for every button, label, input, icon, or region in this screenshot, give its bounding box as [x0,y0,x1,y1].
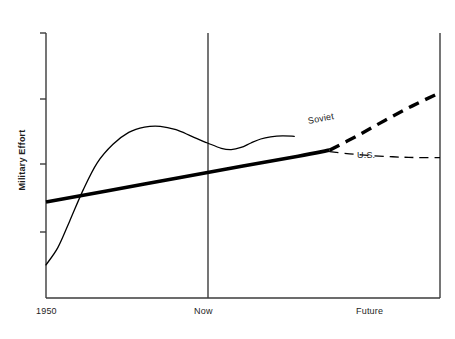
series-trend-bold-solid [46,150,330,202]
chart-figure: Military Effort 1950 Now Future Soviet U… [0,0,455,339]
y-axis-title: Military Effort [17,120,27,200]
series-us-projection [330,152,440,158]
x-tick-label-now: Now [194,306,213,316]
series-soviet-projection [330,93,440,151]
series-label-us: U.S. [357,150,375,160]
chart-plot-area [0,0,455,339]
x-tick-label-future: Future [356,306,383,316]
x-tick-label-1950: 1950 [36,306,57,316]
